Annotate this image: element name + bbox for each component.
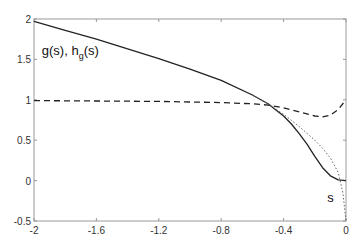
y-tick-label: 0.5 (17, 135, 31, 146)
axis-ticks (34, 19, 346, 221)
x-tick-label: -1.2 (150, 225, 168, 236)
y-tick-label: -0.5 (14, 216, 32, 227)
series-g-s- (34, 21, 346, 180)
annotations: g(s), hg(s)s (42, 43, 334, 205)
plot-area: -2-1.6-1.2-0.8-0.40 -0.500.511.52 g(s), … (14, 14, 349, 236)
axis-variable-label: s (327, 190, 334, 205)
y-tick-label: 0 (25, 176, 31, 187)
curve-label: g(s), hg(s) (42, 43, 99, 61)
x-tick-labels: -2-1.6-1.2-0.8-0.40 (30, 225, 350, 236)
y-tick-label: 2 (25, 14, 31, 25)
x-tick-label: -0.8 (213, 225, 231, 236)
x-tick-label: -0.4 (275, 225, 293, 236)
x-tick-label: -1.6 (88, 225, 106, 236)
y-tick-labels: -0.500.511.52 (14, 14, 32, 227)
y-tick-label: 1 (25, 95, 31, 106)
chart: -2-1.6-1.2-0.8-0.40 -0.500.511.52 g(s), … (0, 0, 364, 249)
x-tick-label: 0 (343, 225, 349, 236)
series-h-g-s- (34, 100, 346, 117)
axes-frame (34, 19, 346, 221)
y-tick-label: 1.5 (17, 54, 31, 65)
